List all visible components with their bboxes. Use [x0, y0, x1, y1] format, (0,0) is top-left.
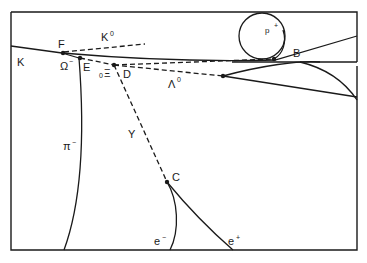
- label-f: F: [58, 38, 65, 50]
- vertex-e: [78, 56, 82, 60]
- pi-minus-track: [64, 58, 82, 250]
- label-lambda-sup: 0: [177, 76, 181, 83]
- label-xi: Ξ: [104, 68, 111, 79]
- label-omega: Ω: [60, 60, 68, 72]
- vertex-b: [272, 57, 276, 61]
- label-d: D: [123, 68, 131, 80]
- label-e-minus: e: [154, 235, 160, 247]
- label-b: B: [293, 47, 300, 59]
- label-k0-sup: 0: [110, 30, 114, 37]
- vertex-f: [61, 51, 65, 55]
- k0-neutral-track: [64, 44, 145, 52]
- label-e-plus: e: [228, 235, 234, 247]
- gamma-neutral-track: [114, 65, 167, 182]
- vertex-d: [112, 63, 116, 67]
- label-lambda: Λ: [168, 78, 176, 90]
- label-e-minus-sup: −: [162, 234, 166, 241]
- particle-track-diagram: K F K 0 Ω − E 0 Ξ D Λ 0 Y π − C e − e + …: [0, 0, 367, 263]
- label-pi-sup: −: [72, 139, 76, 146]
- label-p-sup: +: [274, 22, 278, 29]
- spiral-track: [239, 13, 285, 59]
- label-e-plus-sup: +: [236, 234, 240, 241]
- label-c: C: [172, 171, 180, 183]
- label-pi: π: [63, 140, 71, 152]
- label-gamma: Y: [128, 128, 136, 140]
- label-e: E: [83, 61, 90, 73]
- curved-track-right: [300, 62, 357, 100]
- label-omega-sup: −: [69, 58, 73, 65]
- k-beam-track: [11, 46, 62, 53]
- label-k0: K: [101, 31, 109, 43]
- label-p: p: [265, 26, 270, 35]
- vertex-lambda-decay: [221, 74, 225, 78]
- label-xi-pre: 0: [99, 72, 103, 79]
- label-k: K: [17, 56, 25, 68]
- vertex-c: [165, 180, 169, 184]
